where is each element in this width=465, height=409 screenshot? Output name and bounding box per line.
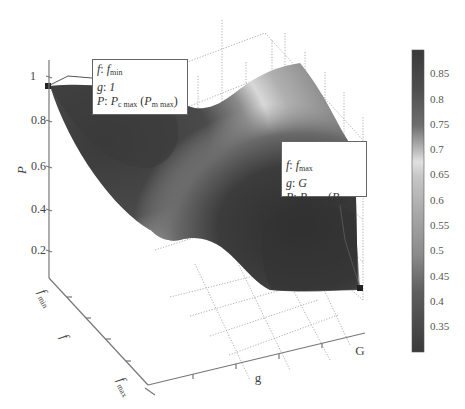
svg-text:min: min: [36, 295, 50, 310]
annot-bottom-line1: f: fmax: [286, 158, 362, 176]
z-tick-0.2: 0.2: [31, 243, 46, 257]
surface-plot: 1 0.8 0.6 0.4 0.2 P f min f f max g G: [0, 0, 465, 409]
colorbar-tick: 0.4: [430, 295, 444, 307]
colorbar-tick: 0.8: [430, 93, 444, 105]
annotation-min-point: f: fmax g: G P: Pc min (Pm min): [281, 141, 367, 197]
colorbar-tick: 0.6: [430, 194, 444, 206]
colorbar-tick: 0.45: [430, 270, 449, 282]
leader-line-top: [48, 76, 92, 86]
g-end-tick-label: G: [355, 343, 364, 358]
annotation-max-point: f: fmin g: 1 P: Pc max (Pm max): [92, 59, 188, 115]
colorbar-tick: 0.55: [430, 219, 449, 231]
g-axis-label: g: [255, 370, 262, 385]
annot-bottom-line2: g: G: [286, 176, 362, 190]
f-axis-label: f: [57, 331, 73, 343]
colorbar-tick: 0.35: [430, 320, 449, 332]
annot-top-line2: g: 1: [97, 80, 183, 94]
z-axis-label: P: [14, 166, 29, 175]
f-min-tick-label: f min: [34, 286, 57, 309]
z-tick-0.6: 0.6: [31, 159, 46, 173]
svg-text:f: f: [57, 331, 73, 343]
annot-top-line1: f: fmin: [97, 62, 183, 80]
colorbar: [412, 50, 424, 352]
colorbar-tick: 0.85: [430, 67, 449, 79]
colorbar-tick: 0.75: [430, 118, 449, 130]
annot-bottom-line3: P: Pc min (Pm min): [286, 190, 362, 226]
z-tick-0.8: 0.8: [31, 113, 46, 127]
colorbar-tick: 0.7: [430, 143, 444, 155]
z-tick-0.4: 0.4: [31, 202, 46, 216]
marker-top: [45, 83, 51, 89]
colorbar-tick: 0.5: [430, 244, 444, 256]
colorbar-tick: 0.65: [430, 168, 449, 180]
annot-top-line3: P: Pc max (Pm max): [97, 94, 183, 112]
f-max-tick-label: f max: [113, 374, 137, 399]
marker-bottom: [357, 285, 363, 291]
svg-text:max: max: [115, 383, 129, 399]
z-tick-1: 1: [30, 69, 36, 83]
